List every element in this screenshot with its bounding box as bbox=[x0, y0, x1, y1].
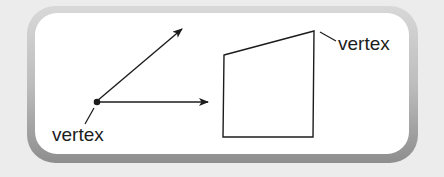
vertex-point bbox=[94, 99, 101, 106]
diagram-canvas: vertex vertex bbox=[0, 0, 444, 177]
angle-vertex-label: vertex bbox=[52, 124, 104, 145]
quad-vertex-label: vertex bbox=[338, 33, 390, 54]
